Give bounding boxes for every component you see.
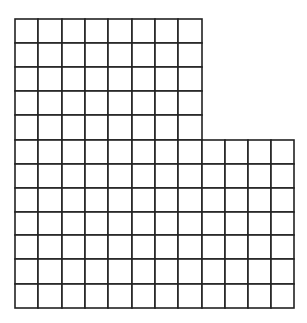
grid-cell — [62, 140, 85, 164]
grid-cell — [202, 284, 225, 308]
grid-cell — [155, 212, 178, 235]
grid-cell — [15, 235, 38, 259]
grid-cell — [155, 164, 178, 188]
grid-cell — [108, 164, 132, 188]
grid-cell — [271, 235, 294, 259]
grid-cell — [38, 140, 62, 164]
grid-cell — [38, 284, 62, 308]
grid-cell — [202, 259, 225, 284]
grid-cell — [15, 91, 38, 115]
grid-cell — [15, 259, 38, 284]
grid-cell — [225, 259, 248, 284]
grid-cell — [15, 140, 38, 164]
grid-cell — [108, 235, 132, 259]
grid-cell — [62, 67, 85, 91]
grid-cell — [225, 188, 248, 212]
grid-cell — [225, 212, 248, 235]
grid-cell — [178, 212, 202, 235]
grid-cell — [62, 235, 85, 259]
grid-cell — [108, 43, 132, 67]
grid-cell — [155, 19, 178, 43]
grid-cell — [15, 115, 38, 140]
grid-cell — [62, 43, 85, 67]
grid-cell — [62, 115, 85, 140]
grid-cell — [178, 235, 202, 259]
grid-cell — [132, 19, 155, 43]
grid-cell — [85, 259, 108, 284]
grid-cell — [178, 115, 202, 140]
grid-cell — [132, 212, 155, 235]
grid-cell — [225, 164, 248, 188]
grid-cell — [155, 284, 178, 308]
grid-cell — [132, 43, 155, 67]
grid-cell — [155, 43, 178, 67]
grid-cell — [155, 140, 178, 164]
grid-cell — [202, 212, 225, 235]
grid-cell — [132, 140, 155, 164]
grid-cell — [202, 140, 225, 164]
grid-cell — [85, 235, 108, 259]
grid-cell — [202, 164, 225, 188]
grid-cell — [155, 235, 178, 259]
grid-cell — [15, 19, 38, 43]
grid-cell — [38, 19, 62, 43]
grid-cell — [62, 164, 85, 188]
grid-cell — [132, 259, 155, 284]
grid-cell — [108, 284, 132, 308]
grid-cell — [85, 67, 108, 91]
grid-cell — [108, 91, 132, 115]
grid-cell — [15, 212, 38, 235]
grid-cell — [108, 115, 132, 140]
grid-cell — [62, 19, 85, 43]
grid-cell — [155, 259, 178, 284]
grid-cell — [85, 140, 108, 164]
grid-cell — [248, 235, 271, 259]
grid-cell — [202, 188, 225, 212]
grid-cell — [271, 188, 294, 212]
grid-cell — [38, 164, 62, 188]
grid-cell — [155, 115, 178, 140]
grid-cell — [108, 212, 132, 235]
grid-cell — [108, 259, 132, 284]
grid-cell — [62, 188, 85, 212]
grid-cell — [38, 43, 62, 67]
grid-cell — [178, 259, 202, 284]
grid-cell — [155, 91, 178, 115]
grid-cell — [62, 284, 85, 308]
grid-cell — [155, 188, 178, 212]
grid-cell — [248, 140, 271, 164]
grid-cell — [108, 67, 132, 91]
grid-cell — [248, 212, 271, 235]
grid-cell — [108, 19, 132, 43]
grid-cell — [62, 212, 85, 235]
grid-cell — [108, 188, 132, 212]
grid-cell — [248, 188, 271, 212]
grid-cell — [85, 284, 108, 308]
grid-cell — [132, 235, 155, 259]
grid-cell — [132, 115, 155, 140]
grid-cell — [85, 164, 108, 188]
grid-cell — [178, 140, 202, 164]
grid-cell — [15, 164, 38, 188]
grid-cell — [271, 259, 294, 284]
grid-cell — [271, 140, 294, 164]
grid-cell — [15, 188, 38, 212]
grid-cell — [248, 259, 271, 284]
grid-cell — [178, 188, 202, 212]
grid-cell — [178, 164, 202, 188]
grid-cell — [15, 67, 38, 91]
grid-cell — [85, 43, 108, 67]
grid-cell — [178, 67, 202, 91]
grid-cell — [108, 140, 132, 164]
grid-cell — [178, 43, 202, 67]
upper-block — [15, 19, 202, 140]
grid-cell — [38, 235, 62, 259]
grid-cell — [271, 212, 294, 235]
grid-cell — [178, 91, 202, 115]
grid-cell — [15, 284, 38, 308]
grid-cell — [248, 164, 271, 188]
grid-cell — [271, 284, 294, 308]
grid-cell — [38, 67, 62, 91]
grid-cell — [155, 67, 178, 91]
grid-cell — [85, 188, 108, 212]
